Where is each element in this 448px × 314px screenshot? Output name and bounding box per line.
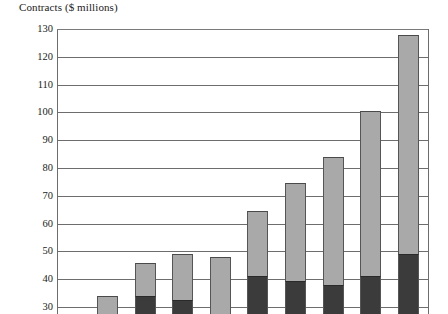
- bar-segment-upper: [323, 157, 344, 285]
- bar-segment-lower: [135, 296, 156, 314]
- bar: [323, 157, 344, 314]
- bar-segment-upper: [360, 111, 381, 276]
- bar: [135, 263, 156, 314]
- gridline: [57, 85, 428, 86]
- bar-segment-lower: [398, 254, 419, 314]
- bar: [97, 296, 118, 314]
- y-axis-tick-label: 100: [19, 107, 53, 117]
- bar-segment-upper: [172, 254, 193, 300]
- bar-segment-lower: [285, 281, 306, 314]
- gridline: [57, 57, 428, 58]
- bar-segment-lower: [172, 300, 193, 314]
- y-axis-tick-label: 30: [19, 302, 53, 312]
- y-axis-tick-label: 90: [19, 135, 53, 145]
- y-axis-tick-label: 70: [19, 191, 53, 201]
- y-axis-tick-label: 60: [19, 219, 53, 229]
- bar-segment-upper: [135, 263, 156, 296]
- y-axis-tick-label: 80: [19, 163, 53, 173]
- y-axis-tick-labels: 13012011010090807060504030: [13, 0, 53, 314]
- bar-segment-upper: [247, 211, 268, 276]
- bar-chart: Contracts ($ millions) 13012011010090807…: [0, 0, 448, 314]
- y-axis-tick-label: 120: [19, 52, 53, 62]
- plot-right-border: [428, 29, 429, 314]
- bar-segment-lower: [323, 285, 344, 314]
- gridline: [57, 29, 428, 30]
- bar: [285, 183, 306, 314]
- bar-segment-upper: [97, 296, 118, 314]
- y-axis-tick-label: 130: [19, 24, 53, 34]
- bar: [210, 257, 231, 314]
- bar-segment-lower: [360, 276, 381, 314]
- y-axis-tick-label: 50: [19, 246, 53, 256]
- y-axis-tick-label: 110: [19, 80, 53, 90]
- bar-segment-upper: [398, 35, 419, 255]
- y-axis-tick-label: 40: [19, 274, 53, 284]
- bar: [247, 211, 268, 314]
- bar-segment-upper: [210, 257, 231, 314]
- bar-segment-lower: [247, 276, 268, 314]
- bar: [398, 35, 419, 314]
- bar-segment-upper: [285, 183, 306, 280]
- bar: [360, 111, 381, 314]
- bar: [172, 254, 193, 314]
- plot-area: [57, 29, 428, 307]
